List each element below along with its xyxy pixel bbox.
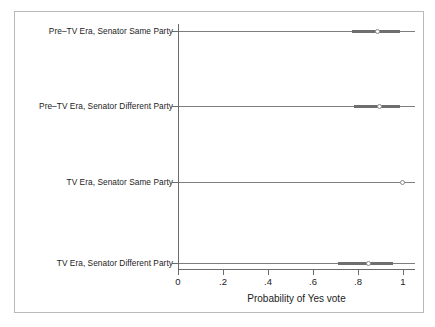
- point-marker-2: [400, 180, 405, 185]
- row-line-2: [179, 182, 415, 183]
- x-tick-mark-0: [178, 270, 179, 275]
- y-axis-label-3: TV Era, Senator Different Party: [57, 258, 173, 268]
- x-tick-mark-5: [403, 270, 404, 275]
- point-marker-1: [377, 104, 382, 109]
- x-tick-label-5: 1: [391, 276, 415, 288]
- x-tick-mark-4: [358, 270, 359, 275]
- y-axis-label-1: Pre–TV Era, Senator Different Party: [39, 101, 173, 111]
- x-tick-label-1: .2: [211, 276, 235, 288]
- x-tick-mark-1: [223, 270, 224, 275]
- x-tick-label-3: .6: [301, 276, 325, 288]
- y-axis-label-2: TV Era, Senator Same Party: [67, 177, 173, 187]
- x-tick-mark-3: [313, 270, 314, 275]
- x-tick-label-2: .4: [256, 276, 280, 288]
- y-axis-label-0: Pre–TV Era, Senator Same Party: [49, 26, 173, 36]
- x-tick-label-0: 0: [166, 276, 190, 288]
- x-axis-title: Probability of Yes vote: [178, 292, 415, 305]
- y-axis-line: [178, 24, 179, 269]
- x-tick-label-4: .8: [346, 276, 370, 288]
- figure-canvas: Pre–TV Era, Senator Same Party Pre–TV Er…: [0, 0, 435, 327]
- plot-area: Pre–TV Era, Senator Same Party Pre–TV Er…: [0, 0, 435, 327]
- x-tick-mark-2: [268, 270, 269, 275]
- x-axis-line: [178, 269, 415, 270]
- point-marker-0: [375, 29, 380, 34]
- point-marker-3: [366, 261, 371, 266]
